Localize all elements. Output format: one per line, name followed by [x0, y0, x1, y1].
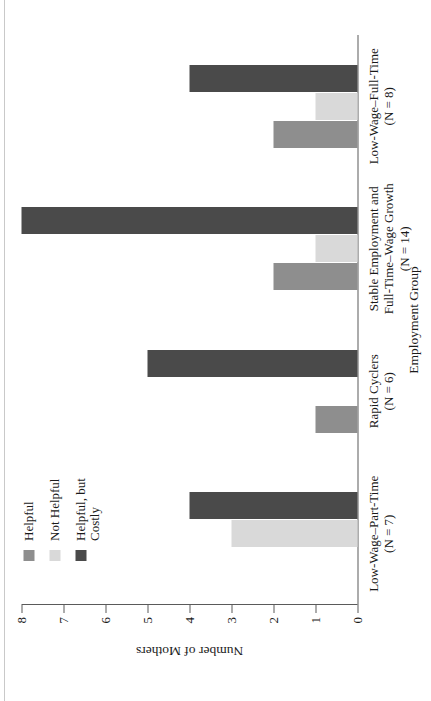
- bar-helpful: [273, 263, 357, 290]
- bar-helpful: [315, 405, 357, 432]
- bar-not-helpful: [315, 92, 357, 119]
- x-axis-title: Employment Group: [405, 35, 421, 605]
- bar-not-helpful: [231, 520, 357, 547]
- y-axis-title: Number of Mothers: [21, 643, 357, 659]
- category-label-line: Rapid Cyclers: [365, 354, 380, 428]
- category-label-line: (N = 8): [380, 35, 395, 178]
- bar-helpful: [273, 120, 357, 147]
- y-axis-tick: [63, 605, 64, 613]
- category-label: Rapid Cyclers(N = 6): [365, 320, 396, 463]
- y-axis-tick: [189, 605, 190, 613]
- category-label-line: Full-Time–Wage Growth: [380, 177, 395, 320]
- y-axis-tick: [273, 605, 274, 613]
- bar-helpful-but-costly: [189, 64, 357, 91]
- plot-area: [21, 35, 357, 605]
- y-axis-tick: [105, 605, 106, 613]
- bar-not-helpful: [315, 235, 357, 262]
- y-axis-tick: [315, 605, 316, 613]
- rotated-chart-stage: Helpful Not Helpful Helpful, but Costly …: [13, 21, 418, 681]
- category-label: Low-Wage–Full-Time(N = 8): [365, 35, 396, 178]
- bar-helpful-but-costly: [147, 349, 357, 376]
- category-label-line: Low-Wage–Part-Time: [365, 475, 380, 591]
- y-axis-tick: [147, 605, 148, 613]
- bar-helpful-but-costly: [21, 207, 357, 234]
- bar-helpful-but-costly: [189, 492, 357, 519]
- chart-page: Helpful Not Helpful Helpful, but Costly …: [0, 0, 431, 701]
- category-label-line: (N = 7): [380, 462, 395, 605]
- category-label-line: Low-Wage–Full-Time: [365, 48, 380, 164]
- y-axis-tick: [21, 605, 22, 613]
- y-axis-tick: [231, 605, 232, 613]
- category-label: Low-Wage–Part-Time(N = 7): [365, 462, 396, 605]
- category-label-line: (N = 6): [380, 320, 395, 463]
- page-edge-line: [4, 0, 5, 701]
- y-axis-tick: [357, 605, 358, 613]
- category-label-line: Stable Employment and: [365, 186, 380, 311]
- category-label: Stable Employment andFull-Time–Wage Grow…: [365, 177, 411, 320]
